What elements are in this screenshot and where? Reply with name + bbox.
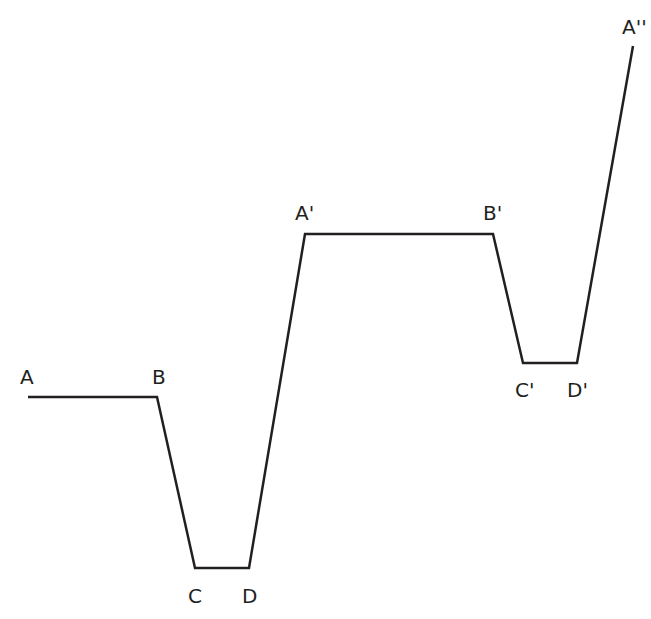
point-label-c1: C' — [515, 378, 534, 402]
point-label-d: D — [242, 584, 257, 608]
point-label-a2: A'' — [622, 15, 647, 39]
point-label-a: A — [20, 365, 34, 389]
point-label-c: C — [188, 584, 202, 608]
point-label-a1: A' — [295, 201, 314, 225]
point-label-d1: D' — [567, 378, 588, 402]
point-labels: ABCDA'B'C'D'A'' — [20, 15, 647, 608]
path-diagram: ABCDA'B'C'D'A'' — [0, 0, 651, 619]
point-label-b1: B' — [483, 201, 502, 225]
point-label-b: B — [152, 365, 166, 389]
connecting-path — [28, 46, 633, 568]
